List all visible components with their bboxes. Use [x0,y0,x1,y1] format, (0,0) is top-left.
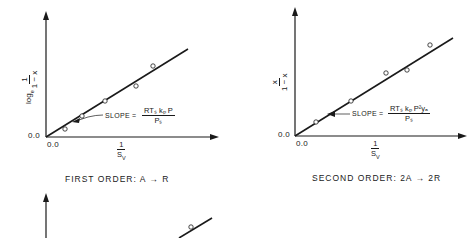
second-order-y-axis-label: x 1 − x [270,73,289,93]
y-label-denominator: 1 − x [30,71,39,89]
first-order-origin-y-label: 0.0 [28,131,40,140]
first-order-y-axis-label: loge 1 1 − x [20,71,39,104]
second-order-plot [292,7,467,139]
y-label-numerator: x [270,78,280,86]
fit-line [179,218,212,238]
first-order-slope-fraction: RTₛ kₚ P Pₛ [142,106,175,125]
x-axis-arrow-icon [210,134,219,140]
second-order-x-axis-label: 1 SV [371,139,380,162]
y-label-denominator: 1 − x [280,73,289,91]
y-axis-arrow-icon [43,11,49,20]
y-axis-arrow-icon [43,193,49,202]
first-order-plot [43,11,219,140]
second-order-slope-label: SLOPE = [352,110,383,117]
second-order-origin-x-label: 0.0 [296,139,308,148]
y-label-numerator: 1 [20,75,30,83]
y-label-prefix: loge [24,90,35,104]
first-order-slope-label: SLOPE = [105,112,136,119]
y-axis-arrow-icon [292,7,298,16]
first-order-caption: FIRST ORDER: A → R [65,174,169,184]
first-order-origin-x-label: 0.0 [47,140,59,149]
data-point [189,225,193,229]
second-order-caption: SECOND ORDER: 2A → 2R [312,173,441,183]
third-plot-partial [43,193,212,238]
x-axis-arrow-icon [458,133,467,139]
first-order-x-axis-label: 1 SV [117,140,126,163]
second-order-slope-fraction: RTₛ kₚ P²yₐ Pₛ [388,104,430,123]
second-order-origin-y-label: 0.0 [278,130,290,139]
